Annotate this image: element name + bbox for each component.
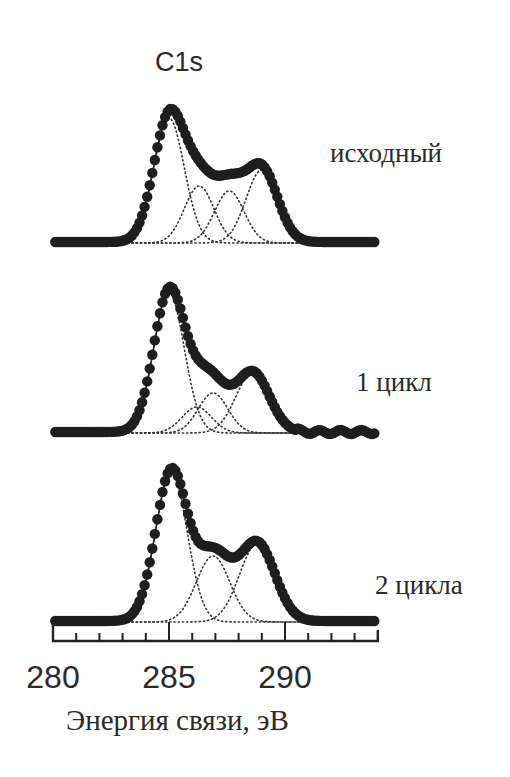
spectra-group bbox=[50, 104, 379, 626]
chart-title: C1s bbox=[155, 47, 203, 77]
spectrum-2 bbox=[50, 282, 379, 440]
series-label-initial: исходный bbox=[330, 138, 442, 168]
x-tick-label-285: 285 bbox=[142, 659, 195, 695]
series-label-2-cycles: 2 цикла bbox=[375, 570, 463, 600]
series-label-1-cycle: 1 цикл bbox=[356, 367, 432, 397]
spectrum-3 bbox=[50, 463, 379, 626]
fit-envelope bbox=[55, 288, 375, 433]
experimental-points bbox=[50, 463, 379, 626]
xps-c1s-chart: C1s исходный 1 цикл 2 цикла 280 285 290 … bbox=[0, 0, 510, 777]
x-axis-label: Энергия связи, эВ bbox=[66, 704, 289, 736]
x-tick-label-290: 290 bbox=[258, 659, 311, 695]
experimental-points bbox=[50, 282, 379, 440]
experimental-points bbox=[50, 104, 379, 247]
spectrum-1 bbox=[50, 104, 379, 247]
x-tick-label-280: 280 bbox=[26, 659, 79, 695]
